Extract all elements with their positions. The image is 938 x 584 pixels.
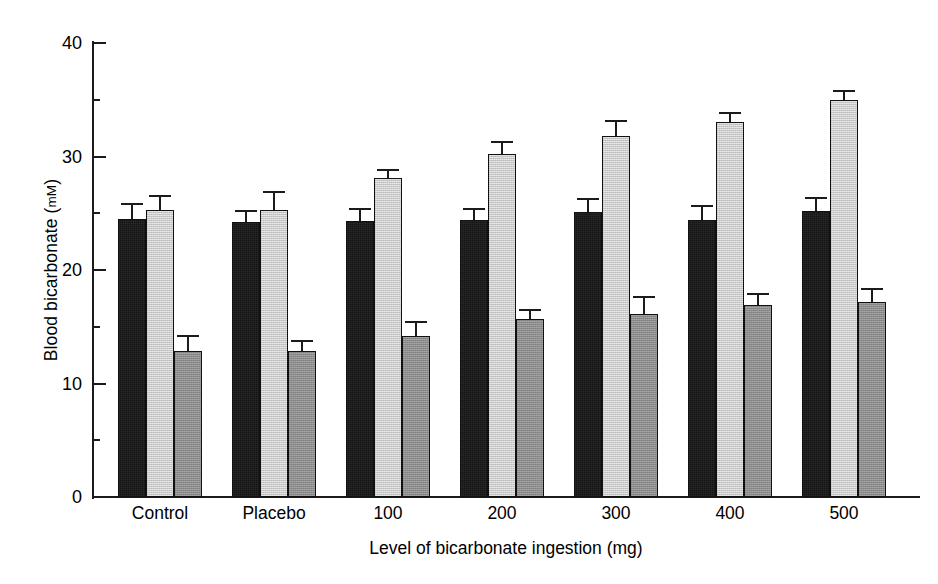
bar bbox=[346, 221, 374, 497]
error-bar-stem bbox=[587, 198, 589, 212]
x-tick-label: 100 bbox=[328, 505, 448, 523]
x-tick-label: 200 bbox=[442, 505, 562, 523]
bar bbox=[830, 100, 858, 497]
error-bar-stem bbox=[187, 335, 189, 351]
error-bar-cap bbox=[235, 210, 257, 212]
bar bbox=[232, 222, 260, 497]
error-bar-cap bbox=[633, 296, 655, 298]
error-bar-cap bbox=[747, 293, 769, 295]
bar bbox=[802, 211, 830, 497]
bar bbox=[602, 136, 630, 497]
error-bar-cap bbox=[519, 309, 541, 311]
error-bar-cap bbox=[377, 169, 399, 171]
bar bbox=[744, 305, 772, 497]
error-bar-stem bbox=[615, 120, 617, 136]
error-bar-cap bbox=[491, 141, 513, 143]
bar bbox=[288, 351, 316, 497]
error-bar-cap bbox=[691, 205, 713, 207]
error-bar-cap bbox=[149, 195, 171, 197]
bar bbox=[460, 220, 488, 497]
x-tick-label: 400 bbox=[670, 505, 790, 523]
bar bbox=[260, 210, 288, 497]
error-bar-cap bbox=[463, 208, 485, 210]
error-bar-cap bbox=[291, 340, 313, 342]
error-bar-cap bbox=[577, 198, 599, 200]
bar bbox=[858, 302, 886, 497]
bar bbox=[688, 220, 716, 497]
error-bar-cap bbox=[861, 288, 883, 290]
error-bar-cap bbox=[605, 120, 627, 122]
error-bar-stem bbox=[501, 141, 503, 155]
bar-chart-figure: Blood bicarbonate (mM) 010203040 Control… bbox=[0, 0, 938, 584]
error-bar-cap bbox=[833, 90, 855, 92]
bar bbox=[716, 122, 744, 497]
bar bbox=[374, 178, 402, 497]
x-tick-label: 500 bbox=[784, 505, 904, 523]
error-bar-cap bbox=[121, 203, 143, 205]
bars-layer bbox=[0, 0, 938, 584]
bar bbox=[574, 212, 602, 497]
bar bbox=[402, 336, 430, 497]
bar bbox=[630, 314, 658, 497]
error-bar-cap bbox=[349, 208, 371, 210]
error-bar-stem bbox=[871, 288, 873, 302]
bar bbox=[488, 154, 516, 497]
bar bbox=[118, 219, 146, 497]
error-bar-stem bbox=[159, 195, 161, 210]
x-tick-label: 300 bbox=[556, 505, 676, 523]
bar bbox=[146, 210, 174, 497]
error-bar-stem bbox=[701, 205, 703, 220]
bar bbox=[174, 351, 202, 497]
error-bar-stem bbox=[273, 191, 275, 210]
error-bar-cap bbox=[177, 335, 199, 337]
bar bbox=[516, 319, 544, 497]
error-bar-stem bbox=[643, 296, 645, 314]
x-tick-label: Placebo bbox=[214, 505, 334, 523]
x-axis-title: Level of bicarbonate ingestion (mg) bbox=[92, 538, 920, 559]
x-tick-label: Control bbox=[100, 505, 220, 523]
error-bar-stem bbox=[415, 321, 417, 336]
error-bar-stem bbox=[815, 197, 817, 211]
error-bar-stem bbox=[131, 203, 133, 219]
error-bar-cap bbox=[405, 321, 427, 323]
error-bar-cap bbox=[719, 112, 741, 114]
error-bar-cap bbox=[263, 191, 285, 193]
error-bar-cap bbox=[805, 197, 827, 199]
error-bar-stem bbox=[359, 208, 361, 222]
